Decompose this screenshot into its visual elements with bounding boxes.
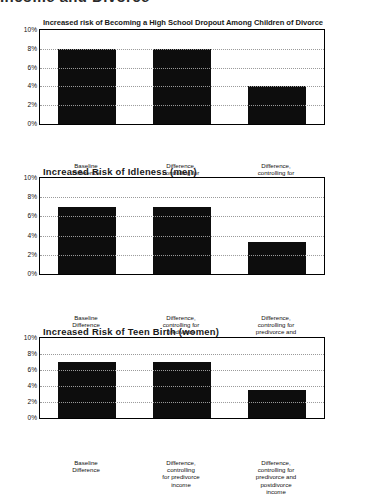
y-axis-tick-label: 6% <box>27 64 37 71</box>
gridline <box>40 370 324 371</box>
y-axis-tick-label: 4% <box>27 83 37 90</box>
y-axis-tick-label: 0% <box>27 415 37 422</box>
y-axis-tick-label: 10% <box>24 175 37 182</box>
x-axis-label-line: income <box>233 488 319 495</box>
x-axis-label-line: controlling for <box>233 466 319 473</box>
gridline <box>40 216 324 217</box>
gridline <box>40 68 324 69</box>
y-axis-tick-label: 2% <box>27 252 37 259</box>
x-axis-label-line: income <box>138 481 224 488</box>
x-axis-label-line: Baseline <box>43 459 129 466</box>
y-axis-tick-label: 2% <box>27 399 37 406</box>
x-axis-label-line: Difference <box>43 466 129 473</box>
x-axis-label-line: Difference, <box>233 314 319 321</box>
chart-title: Increased Risk of Teen Birth (women) <box>43 326 219 337</box>
bars-container <box>40 178 324 274</box>
y-axis-tick-label: 0% <box>27 271 37 278</box>
y-axis-tick-label: 8% <box>27 194 37 201</box>
y-axis-tick-label: 6% <box>27 367 37 374</box>
y-axis-tick-label: 10% <box>24 27 37 34</box>
x-axis-label-line: controlling <box>138 466 224 473</box>
x-axis-label-line: for predivorce <box>138 473 224 480</box>
y-axis-tick-label: 8% <box>27 46 37 53</box>
y-axis-tick-label: 6% <box>27 213 37 220</box>
gridline <box>40 49 324 50</box>
x-axis-label-line: Difference, <box>233 459 319 466</box>
plot-area: 0%2%4%6%8%10% <box>39 29 325 125</box>
bars-container <box>40 30 324 124</box>
x-axis-label-line: predivorce and <box>233 473 319 480</box>
gridline <box>40 86 324 87</box>
bar <box>248 242 306 274</box>
bar <box>248 390 306 418</box>
y-axis-tick-label: 4% <box>27 232 37 239</box>
gridline <box>40 402 324 403</box>
gridline <box>40 105 324 106</box>
x-axis-label-line: postdivorce <box>233 481 319 488</box>
y-axis-tick-label: 2% <box>27 102 37 109</box>
gridline <box>40 236 324 237</box>
y-axis-tick-label: 8% <box>27 351 37 358</box>
x-axis-label-line: Baseline <box>43 314 129 321</box>
gridline <box>40 354 324 355</box>
plot-area: 0%2%4%6%8%10% <box>39 177 325 275</box>
y-axis-tick-label: 10% <box>24 335 37 342</box>
chart-idleness-risk: Increased Risk of Idleness (men) 0%2%4%6… <box>0 166 386 312</box>
y-axis-tick-label: 4% <box>27 383 37 390</box>
x-axis-category-label: BaselineDifference <box>43 459 129 473</box>
page-title: Income and Divorce <box>0 0 386 10</box>
chart-teen-birth-risk: Increased Risk of Teen Birth (women) 0%2… <box>0 326 386 457</box>
y-axis-tick-label: 0% <box>27 121 37 128</box>
x-axis-category-label: Difference,controlling forpredivorce and… <box>233 459 319 495</box>
bars-container <box>40 338 324 418</box>
x-axis-label-line: Difference, <box>138 314 224 321</box>
gridline <box>40 255 324 256</box>
chart-dropout-risk: Increased risk of Becoming a High School… <box>0 18 386 160</box>
x-axis-category-label: Difference,controllingfor predivorceinco… <box>138 459 224 488</box>
plot-area: 0%2%4%6%8%10% <box>39 337 325 419</box>
chart-title: Increased risk of Becoming a High School… <box>43 18 323 27</box>
x-axis-label-line: Difference, <box>138 459 224 466</box>
chart-title: Increased Risk of Idleness (men) <box>43 166 197 177</box>
gridline <box>40 386 324 387</box>
gridline <box>40 197 324 198</box>
